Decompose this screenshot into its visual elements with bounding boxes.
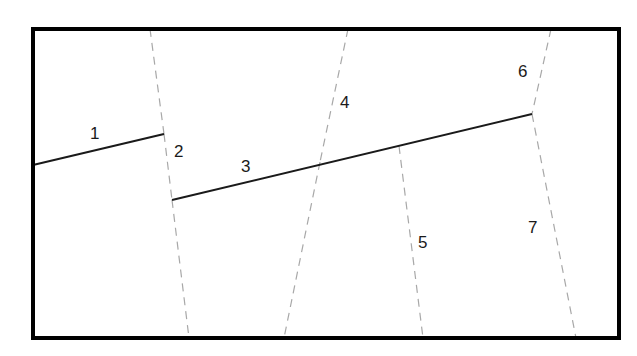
label-7: 7 bbox=[528, 218, 537, 237]
diagram-background bbox=[0, 0, 637, 356]
label-2: 2 bbox=[174, 142, 183, 161]
label-6: 6 bbox=[518, 62, 527, 81]
segment-diagram: 1 2 3 4 5 6 7 bbox=[0, 0, 637, 356]
label-4: 4 bbox=[340, 93, 349, 112]
label-1: 1 bbox=[90, 124, 99, 143]
label-3: 3 bbox=[241, 157, 250, 176]
label-5: 5 bbox=[418, 233, 427, 252]
